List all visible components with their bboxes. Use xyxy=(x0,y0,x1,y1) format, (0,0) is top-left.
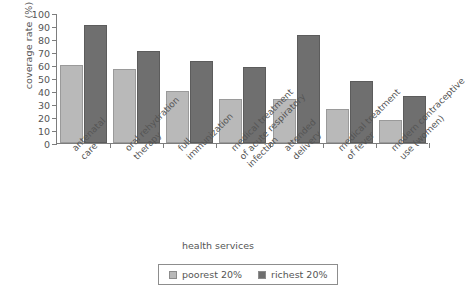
legend-label: richest 20% xyxy=(271,269,327,280)
legend-swatch-poor xyxy=(169,271,177,279)
y-axis-tick-label: 0 xyxy=(24,139,50,150)
y-axis-tick-label: 40 xyxy=(24,87,50,98)
y-axis-tick-label: 70 xyxy=(24,48,50,59)
x-axis-title: health services xyxy=(0,240,436,251)
legend-label: poorest 20% xyxy=(182,269,242,280)
legend-item: richest 20% xyxy=(258,269,327,280)
y-axis-tick-label: 10 xyxy=(24,126,50,137)
y-axis-tick-label: 100 xyxy=(24,9,50,20)
x-axis-category-labels: antenatalcareoral rehydrationtherapyfull… xyxy=(56,146,428,238)
chart-legend: poorest 20%richest 20% xyxy=(158,264,338,285)
x-axis-tick xyxy=(429,143,430,148)
y-axis-tick-label: 90 xyxy=(24,22,50,33)
y-axis-tick-label: 80 xyxy=(24,35,50,46)
y-axis-tick xyxy=(52,144,57,145)
y-axis-tick-label: 20 xyxy=(24,113,50,124)
bar-poorest xyxy=(60,65,83,143)
legend-swatch-rich xyxy=(258,271,266,279)
y-axis-tick-label: 30 xyxy=(24,100,50,111)
y-axis-tick-label: 60 xyxy=(24,61,50,72)
y-axis-tick-label: 50 xyxy=(24,74,50,85)
legend-item: poorest 20% xyxy=(169,269,242,280)
